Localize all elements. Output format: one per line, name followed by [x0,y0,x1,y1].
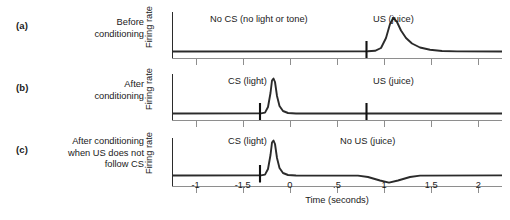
x-axis-tick [290,121,291,127]
panel-b-x-axis [172,120,502,127]
panel-a-x-axis [172,58,502,65]
x-axis-tick [337,121,338,127]
x-axis-tick [243,59,244,65]
x-axis-tick [337,59,338,65]
panel-a-caption: Beforeconditioning [22,17,144,40]
x-axis-tick-label: 2 [476,180,481,190]
x-axis-tick [290,59,291,65]
panel-b: (b) Afterconditioning Firing rate CS (li… [0,66,510,128]
x-axis-tick-label: 0 [287,180,292,190]
x-axis-tick [196,121,197,127]
panel-b-y-axis-label: Firing rate [144,66,154,112]
panel-c-firing-rate-trace [172,141,502,183]
panel-b-firing-rate-trace [172,79,502,114]
x-axis-tick-label: 1.5 [425,180,438,190]
x-axis-tick [431,59,432,65]
panel-b-caption: Afterconditioning [22,79,144,102]
panel-b-plot [172,70,502,122]
x-axis-tick [478,121,479,127]
x-axis-tick [384,121,385,127]
x-axis-tick [431,121,432,127]
panel-a: (a) Beforeconditioning Firing rate No CS… [0,4,510,66]
panel-b-cs-annotation: CS (light) [228,76,267,86]
x-axis-tick [478,59,479,65]
panel-b-us-annotation: US (juice) [373,76,414,86]
figure-dopamine-conditioning: (a) Beforeconditioning Firing rate No CS… [0,0,510,220]
panel-c-no-us-annotation: No US (juice) [340,136,395,146]
panel-c-y-axis-label: Firing rate [144,130,154,176]
x-axis-tick [243,121,244,127]
x-axis-tick [384,59,385,65]
x-axis-tick-label: -1 [191,180,199,190]
x-axis-tick-label: -1.5 [235,180,251,190]
panel-c-caption: After conditioningwhen US does notfollow… [22,136,144,171]
x-axis-tick-labels: -1-1.50.511.52 [172,180,502,193]
x-axis-title: Time (seconds) [172,195,502,205]
x-axis-tick-label: .5 [333,180,341,190]
x-axis-tick [196,59,197,65]
panel-b-trace-svg [172,70,502,122]
panel-c-cs-annotation: CS (light) [228,136,267,146]
panel-a-no-cs-annotation: No CS (no light or tone) [210,14,308,24]
panel-a-y-axis-label: Firing rate [144,4,154,50]
panel-a-us-annotation: US (juice) [373,14,414,24]
x-axis-tick-label: 1 [382,180,387,190]
